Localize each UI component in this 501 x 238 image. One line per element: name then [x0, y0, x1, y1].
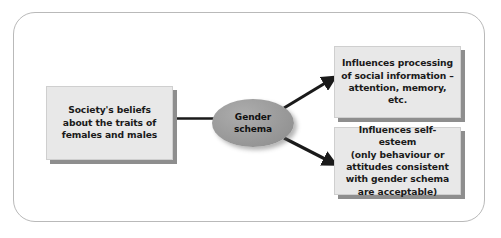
node-gender-schema: Gender schema: [212, 99, 294, 147]
node-influences-processing: Influences processing of social informat…: [334, 46, 461, 118]
node-influences-self-esteem-label: Influences self-esteem (only behaviour o…: [335, 124, 460, 198]
node-society-beliefs-label: Society's beliefs about the traits of fe…: [57, 104, 163, 141]
node-society-beliefs: Society's beliefs about the traits of fe…: [46, 86, 173, 160]
diagram-canvas: Society's beliefs about the traits of fe…: [0, 0, 501, 238]
node-influences-processing-label: Influences processing of social informat…: [335, 57, 460, 107]
node-influences-self-esteem: Influences self-esteem (only behaviour o…: [334, 127, 461, 195]
node-gender-schema-label: Gender schema: [234, 111, 272, 135]
